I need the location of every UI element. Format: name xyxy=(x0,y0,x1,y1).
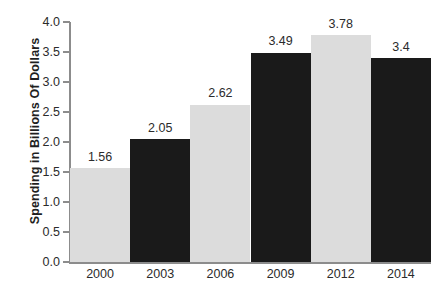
bar-slot: 1.56 xyxy=(70,22,130,262)
x-axis-line xyxy=(69,262,431,264)
bar-slot: 3.49 xyxy=(251,22,311,262)
x-tick-label: 2009 xyxy=(251,268,311,281)
y-tick-label: 3.5 xyxy=(20,46,60,59)
y-tick-label: 4.0 xyxy=(20,16,60,29)
x-tick-label: 2003 xyxy=(130,268,190,281)
y-axis-title: Spending in Billions Of Dollars xyxy=(24,0,46,262)
y-tick-mark xyxy=(63,231,70,233)
y-tick-label: 1.5 xyxy=(20,166,60,179)
y-tick-label: 2.0 xyxy=(20,136,60,149)
bar[interactable] xyxy=(251,53,311,262)
bar[interactable] xyxy=(311,35,371,262)
x-tick-label: 2000 xyxy=(70,268,130,281)
x-tick-label: 2006 xyxy=(190,268,250,281)
bar-slot: 3.78 xyxy=(311,22,371,262)
y-tick-mark xyxy=(63,201,70,203)
bar[interactable] xyxy=(371,58,431,262)
y-tick-label: 2.5 xyxy=(20,106,60,119)
bar-value-label: 3.4 xyxy=(392,41,409,54)
bar[interactable] xyxy=(130,139,190,262)
y-tick-label: 0.0 xyxy=(20,256,60,269)
bar-slot: 3.4 xyxy=(371,22,431,262)
plot-area: 1.562.052.623.493.783.4 xyxy=(70,22,431,262)
bar[interactable] xyxy=(190,105,250,262)
bar-value-label: 2.62 xyxy=(208,87,232,100)
y-tick-mark xyxy=(63,21,70,23)
y-tick-label: 1.0 xyxy=(20,196,60,209)
x-tick-label: 2014 xyxy=(371,268,431,281)
y-tick-mark xyxy=(63,141,70,143)
bar-value-label: 3.49 xyxy=(268,35,292,48)
bar-slot: 2.05 xyxy=(130,22,190,262)
bar-value-label: 3.78 xyxy=(329,18,353,31)
y-tick-mark xyxy=(63,51,70,53)
y-tick-mark xyxy=(63,171,70,173)
x-tick-label: 2012 xyxy=(311,268,371,281)
bar-value-label: 1.56 xyxy=(88,151,112,164)
y-tick-label: 3.0 xyxy=(20,76,60,89)
y-tick-mark xyxy=(63,111,70,113)
y-tick-mark xyxy=(63,261,70,263)
bar-value-label: 2.05 xyxy=(148,122,172,135)
bar-slot: 2.62 xyxy=(190,22,250,262)
y-tick-label: 0.5 xyxy=(20,226,60,239)
bar-chart: Spending in Billions Of Dollars 0.00.51.… xyxy=(0,0,441,304)
bar[interactable] xyxy=(70,168,130,262)
y-tick-mark xyxy=(63,81,70,83)
